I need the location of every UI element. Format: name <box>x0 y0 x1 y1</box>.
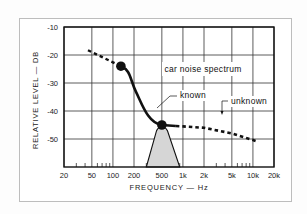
arrowhead-icon <box>221 111 224 115</box>
annotation-car-noise-spectrum: car noise spectrum <box>164 64 241 74</box>
known-leader-line <box>157 96 177 108</box>
unknown-leader-line <box>222 101 228 112</box>
known-solid-line <box>121 66 162 125</box>
annotation-known: known <box>180 90 206 100</box>
x-tick-label: 200 <box>128 171 141 180</box>
y-tick-label: -40 <box>47 107 58 116</box>
x-tick-label: 500 <box>156 171 169 180</box>
data-point-marker <box>157 120 167 130</box>
x-tick-label: 10k <box>247 171 259 180</box>
x-tick-label: 5k <box>228 171 236 180</box>
data-point-marker <box>116 61 126 71</box>
annotation-unknown: unknown <box>231 96 267 106</box>
y-axis-ticks: -10-20-30-40-50 <box>47 23 58 144</box>
x-axis-ticks: 20501002005001k2k5k10k20k <box>60 171 280 180</box>
unknown-low-dashed-line <box>88 50 121 66</box>
y-tick-label: -10 <box>47 23 58 32</box>
y-tick-label: -30 <box>47 79 58 88</box>
x-axis-label: FREQUENCY — Hz <box>130 183 209 192</box>
unknown-high-dashed-line <box>176 126 259 142</box>
y-tick-label: -50 <box>47 135 58 144</box>
x-tick-label: 2k <box>200 171 208 180</box>
y-axis-label: RELATIVE LEVEL — DB <box>31 51 40 149</box>
x-tick-label: 1k <box>179 171 187 180</box>
band-pass-filter-area <box>146 126 179 167</box>
y-tick-label: -20 <box>47 51 58 60</box>
x-tick-label: 20 <box>60 171 68 180</box>
x-tick-label: 100 <box>107 171 120 180</box>
band-pass-filter-shape <box>146 126 179 167</box>
x-tick-label: 50 <box>88 171 96 180</box>
x-tick-label: 20k <box>268 171 280 180</box>
chart: 20501002005001k2k5k10k20k -10-20-30-40-5… <box>0 0 307 214</box>
